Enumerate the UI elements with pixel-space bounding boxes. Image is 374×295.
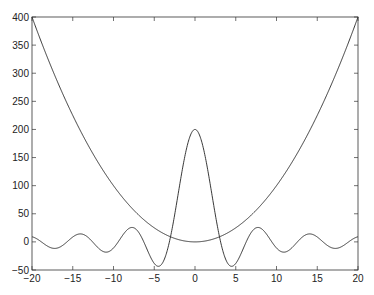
x-axis-ticks: −20−15−10−505101520 bbox=[24, 17, 364, 284]
x-tick-label: −5 bbox=[149, 273, 161, 284]
x-tick-label: 10 bbox=[271, 273, 283, 284]
y-tick-label: 50 bbox=[18, 208, 30, 219]
y-tick-label: −50 bbox=[12, 265, 29, 276]
plot-curves bbox=[32, 17, 358, 266]
y-tick-label: 400 bbox=[12, 12, 29, 23]
y-tick-label: 0 bbox=[23, 236, 29, 247]
y-tick-label: 200 bbox=[12, 124, 29, 135]
x-tick-label: −10 bbox=[105, 273, 122, 284]
x-tick-label: 20 bbox=[352, 273, 364, 284]
y-tick-label: 250 bbox=[12, 96, 29, 107]
y-axis-ticks: −50050100150200250300350400 bbox=[12, 12, 358, 276]
y-tick-label: 350 bbox=[12, 40, 29, 51]
x-tick-label: −15 bbox=[64, 273, 81, 284]
y-tick-label: 100 bbox=[12, 180, 29, 191]
y-tick-label: 300 bbox=[12, 68, 29, 79]
x-tick-label: 5 bbox=[233, 273, 239, 284]
plot-frame bbox=[32, 17, 358, 270]
x-tick-label: 15 bbox=[312, 273, 324, 284]
series-line-1 bbox=[32, 129, 358, 266]
y-tick-label: 150 bbox=[12, 152, 29, 163]
line-chart: −20−15−10−505101520 −5005010015020025030… bbox=[0, 0, 374, 295]
x-tick-label: 0 bbox=[192, 273, 198, 284]
